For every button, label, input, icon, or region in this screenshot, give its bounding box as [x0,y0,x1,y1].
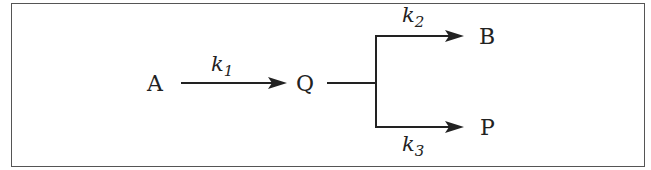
species-b: B [479,24,495,49]
arrow-q-to-p [375,121,464,133]
reaction-scheme: A k1 Q k2 B k3 P [0,0,651,170]
rate-constant-k2: k2 [402,3,424,31]
branch-connector [327,35,377,128]
arrow-a-to-q [181,77,287,89]
species-q: Q [296,71,314,96]
rate-constant-k3: k3 [402,132,424,160]
rate-constant-k1: k1 [211,52,233,80]
arrow-q-to-b [375,30,464,42]
species-p: P [480,115,495,140]
species-a: A [146,71,164,96]
